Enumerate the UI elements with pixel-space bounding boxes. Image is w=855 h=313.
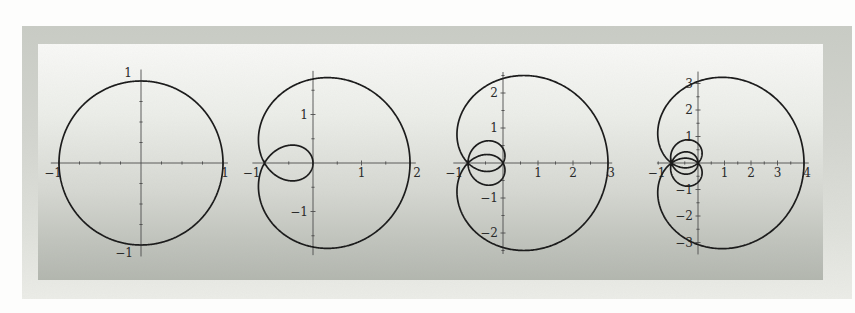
y-tick-label: 1	[300, 108, 308, 122]
scan-grain-texture	[22, 26, 852, 299]
y-tick-label: 2	[490, 86, 498, 100]
y-tick-label: −1	[480, 191, 498, 205]
y-tick-label: 1	[490, 121, 498, 135]
y-tick-label: −2	[675, 209, 693, 223]
x-tick-label: 2	[747, 166, 755, 180]
y-tick-label: −1	[675, 183, 693, 197]
x-tick-label: 1	[721, 166, 729, 180]
x-tick-label: 2	[413, 166, 421, 180]
x-tick-label: −1	[243, 166, 261, 180]
y-tick-label: 2	[685, 103, 693, 117]
y-tick-label: −1	[115, 246, 133, 260]
curves-figure-canvas: −111−1−1121−1−112321−1−2−11234321−1−2−3	[0, 0, 855, 313]
x-tick-label: 3	[774, 166, 782, 180]
y-tick-label: 1	[685, 130, 693, 144]
x-tick-label: 2	[569, 166, 577, 180]
y-tick-label: 1	[124, 66, 132, 80]
x-tick-label: 1	[534, 166, 542, 180]
y-tick-label: −1	[290, 205, 308, 219]
x-tick-label: 1	[358, 166, 366, 180]
screenshot-root: −111−1−1121−1−112321−1−2−11234321−1−2−3	[0, 0, 855, 313]
